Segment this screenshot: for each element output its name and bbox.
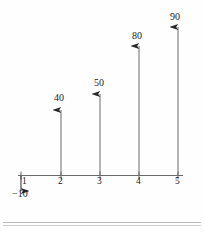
chart-canvas: −10 40 50 80 90 1 2 3 4 5 <box>0 0 204 232</box>
arrow-plot-svg <box>0 0 204 232</box>
footer-rule-bottom <box>3 225 201 226</box>
value-label-2: 40 <box>54 93 64 103</box>
tick-label-4: 4 <box>136 177 141 187</box>
value-label-1: −10 <box>12 189 28 199</box>
footer-rule-top <box>3 222 201 223</box>
tick-label-2: 2 <box>58 177 63 187</box>
tick-label-3: 3 <box>97 177 102 187</box>
tick-label-5: 5 <box>175 177 180 187</box>
value-label-4: 80 <box>132 31 142 41</box>
value-label-5: 90 <box>170 12 180 22</box>
tick-label-1: 1 <box>22 177 27 187</box>
value-label-3: 50 <box>94 78 104 88</box>
